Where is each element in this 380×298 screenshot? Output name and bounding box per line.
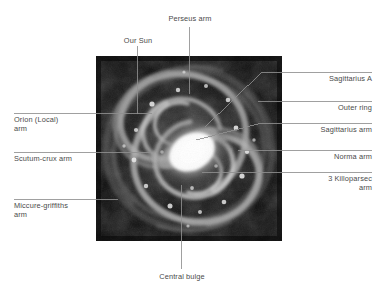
spiral-galaxy-graphic xyxy=(96,56,282,241)
label-orion-local-arm: Orion (Local) arm xyxy=(14,115,98,134)
label-our-sun: Our Sun xyxy=(108,36,168,45)
spiral-galaxy-image xyxy=(96,56,282,241)
label-central-bulge: Central bulge xyxy=(151,272,213,281)
label-outer-ring: Outer ring xyxy=(292,103,372,112)
galaxy-diagram-page: Our Sun Perseus arm Sagittarius A Outer … xyxy=(0,0,380,298)
label-miccure-griffiths-arm: Miccure-griffiths arm xyxy=(14,201,102,220)
label-sagittarius-a: Sagittarius A xyxy=(292,74,372,83)
label-3-killoparsec-arm: 3 Killoparsec arm xyxy=(292,174,372,193)
label-norma-arm: Norma arm xyxy=(292,152,372,161)
label-perseus-arm: Perseus arm xyxy=(155,14,225,23)
label-scutum-crux-arm: Scutum-crux arm xyxy=(14,154,102,163)
label-sagittarius-arm: Sagittarius arm xyxy=(292,125,372,134)
